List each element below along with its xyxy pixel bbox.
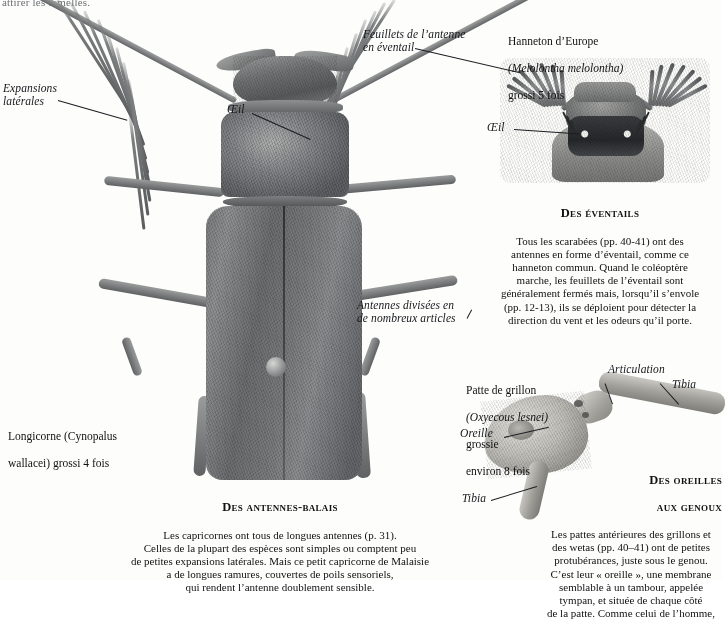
caption-oreilles-title-2: aux genoux [540, 501, 722, 514]
cricket-scientific-name: (Oxyecous lesnei) [466, 411, 548, 424]
label-tibia-upper: Tibia [672, 378, 696, 391]
beetle-elytra [206, 206, 362, 480]
leader-expansions [58, 100, 127, 121]
label-oeil-chafer: Œil [487, 121, 505, 134]
cricket-magnification-2: environ 8 fois [466, 465, 548, 478]
cricket-common-name: Patte de grillon [466, 384, 548, 397]
chafer-common-name: Hanneton d’Europe [508, 35, 623, 48]
caption-eventails-title: Des éventails [480, 207, 720, 220]
longhorn-caption-line2: wallacei) grossi 4 fois [8, 457, 117, 470]
longhorn-caption-line1: Longicorne (Cynopalus [8, 430, 117, 443]
caption-des-eventails: Des éventails Tous les scarabées (pp. 40… [480, 194, 720, 327]
label-feuillets-antenne: Feuillets de l’antenne en éventail [363, 28, 465, 54]
chafer-magnification: grossi 5 fois [508, 89, 623, 102]
beetle-thorax [221, 112, 349, 197]
cricket-specimen-caption: Patte de grillon (Oxyecous lesnei) gross… [466, 371, 548, 492]
label-antennes-divisees: Antennes divisées en de nombreux article… [357, 299, 456, 325]
label-oeil-beetle: Œil [227, 103, 245, 116]
chafer-scientific-name: (Melolontha melolontha) [508, 62, 623, 75]
caption-eventails-body: Tous les scarabées (pp. 40-41) ont des a… [501, 235, 699, 326]
caption-des-antennes-balais: Des antennes-balais Les capricornes ont … [94, 488, 466, 595]
label-expansions-laterales: Expansions latérales [3, 82, 57, 108]
leader-antennes-divisees [467, 309, 473, 318]
caption-antennes-balais-body: Les capricornes ont tous de longues ante… [131, 529, 429, 594]
longhorn-specimen-caption: Longicorne (Cynopalus wallacei) grossi 4… [8, 417, 117, 484]
caption-oreilles-body: Les pattes antérieures des grillons et d… [547, 528, 715, 619]
label-articulation: Articulation [608, 363, 665, 376]
cricket-magnification-1: grossie [466, 438, 548, 451]
beetle-head [233, 56, 337, 104]
caption-antennes-balais-title: Des antennes-balais [94, 501, 466, 514]
chafer-specimen-caption: Hanneton d’Europe (Melolontha melolontha… [508, 22, 623, 116]
longhorn-beetle-photo [118, 52, 448, 484]
caption-des-oreilles-aux-genoux: Des oreilles aux genoux Les pattes antér… [540, 461, 722, 620]
caption-oreilles-title-1: Des oreilles [540, 474, 722, 487]
